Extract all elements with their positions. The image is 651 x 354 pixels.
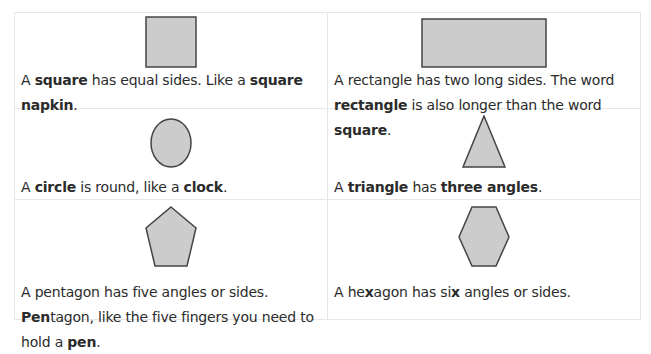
text-span: . (538, 179, 542, 195)
shapes-table: A square has equal sides. Like a square … (14, 12, 641, 320)
text-span: A (21, 179, 35, 195)
triangle-icon (461, 115, 507, 169)
bold-term: x (365, 284, 374, 300)
table-row: A pentagon has five angles or sides. Pen… (15, 200, 641, 320)
pentagon-icon (145, 206, 197, 268)
text-span: A (21, 72, 35, 88)
hexagon-icon (458, 206, 510, 268)
square-icon (145, 16, 197, 68)
text-span: A (334, 179, 348, 195)
bold-term: Pen (21, 309, 50, 325)
bold-term: circle (35, 179, 76, 195)
text-span: agon has si (374, 284, 452, 300)
bold-term: pen (67, 334, 96, 350)
text-span: . (223, 179, 227, 195)
text-span: . (96, 334, 100, 350)
text-span: has equal sides. Like a (88, 72, 250, 88)
hexagon-cell: A hexagon has six angles or sides. (328, 200, 641, 320)
bold-term: square (35, 72, 88, 88)
circle-cell: A circle is round, like a clock. (15, 109, 328, 200)
circle-icon (149, 117, 193, 169)
hexagon-description: A hexagon has six angles or sides. (334, 280, 634, 305)
table-row: A circle is round, like a clock. A trian… (15, 109, 641, 200)
text-span: has (408, 179, 441, 195)
text-span: tagon, like the five fingers you need to… (21, 309, 314, 350)
rectangle-icon (421, 18, 547, 68)
text-span: angles or sides. (460, 284, 571, 300)
bold-term: clock (184, 179, 223, 195)
pentagon-description: A pentagon has five angles or sides. Pen… (21, 280, 321, 354)
triangle-cell: A triangle has three angles. (328, 109, 641, 200)
triangle-description: A triangle has three angles. (334, 175, 634, 200)
rectangle-cell: A rectangle has two long sides. The word… (328, 13, 641, 109)
bold-term: triangle (348, 179, 409, 195)
circle-description: A circle is round, like a clock. (21, 175, 321, 200)
bold-term: x (451, 284, 460, 300)
square-cell: A square has equal sides. Like a square … (15, 13, 328, 109)
text-span: A he (334, 284, 365, 300)
text-span: is round, like a (76, 179, 184, 195)
text-span: A rectangle has two long sides. The word (334, 72, 614, 88)
bold-term: three angles (441, 179, 538, 195)
pentagon-cell: A pentagon has five angles or sides. Pen… (15, 200, 328, 320)
table-row: A square has equal sides. Like a square … (15, 13, 641, 109)
text-span: A pentagon has five angles or sides. (21, 284, 268, 300)
